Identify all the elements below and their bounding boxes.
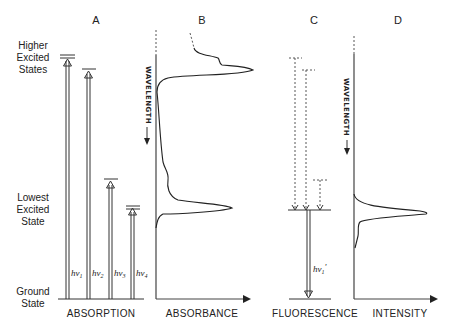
absorbance-axis-arrowhead [243, 295, 251, 303]
hv3-label: hν3 [114, 268, 126, 279]
svg-text:State: State [21, 298, 45, 309]
absorbance-spectrum-curve [156, 48, 253, 228]
intensity-axis-label: INTENSITY [373, 308, 428, 319]
fluorescence-axis-label: FLUORESCENCE [272, 308, 358, 319]
jablonski-diagram: A B C D Higher Excited States Lowest Exc… [0, 0, 458, 329]
absorbance-axes [156, 30, 251, 303]
lowest-excited-state-label: Lowest Excited State [17, 192, 50, 227]
higher-excited-states-label: Higher Excited States [17, 40, 50, 75]
fluorescence-emission-arrow [305, 210, 313, 298]
panel-a-letter: A [92, 14, 100, 26]
wavelength-arrow-d-icon [344, 140, 350, 155]
panel-c-letter: C [310, 14, 318, 26]
fluorescence-spectrum-curve [354, 194, 427, 248]
absorption-arrow-2 [82, 69, 96, 299]
absorbance-curve-dashed [190, 33, 194, 48]
absorption-arrow-4 [126, 206, 140, 299]
hv1-label: hν1 [71, 268, 83, 279]
wavelength-arrow-b-icon [144, 127, 150, 145]
svg-text:States: States [19, 64, 47, 75]
wavelength-label-b: WAVELENGTH [144, 66, 152, 124]
hv4-label: hν4 [136, 268, 148, 279]
svg-text:Lowest: Lowest [17, 192, 49, 203]
hv1-prime-label: hν1' [313, 262, 328, 275]
ground-state-label: Ground State [16, 286, 49, 309]
absorption-axis-label: ABSORPTION [67, 308, 136, 319]
wavelength-label-d: WAVELENGTH [342, 78, 350, 136]
hv2-label: hν2 [92, 268, 104, 279]
intensity-axes [354, 36, 438, 303]
absorption-arrow-3 [104, 179, 118, 299]
panel-b-letter: B [198, 14, 205, 26]
svg-text:State: State [21, 216, 45, 227]
absorbance-axis-label: ABSORBANCE [166, 308, 238, 319]
panel-d-letter: D [394, 14, 402, 26]
svg-text:Excited: Excited [17, 52, 50, 63]
svg-text:Higher: Higher [18, 40, 48, 51]
absorption-arrow-1 [60, 55, 75, 299]
intensity-axis-arrowhead [430, 295, 438, 303]
vibrational-relaxation-arrows [289, 58, 328, 210]
svg-text:Ground: Ground [16, 286, 49, 297]
svg-text:Excited: Excited [17, 204, 50, 215]
